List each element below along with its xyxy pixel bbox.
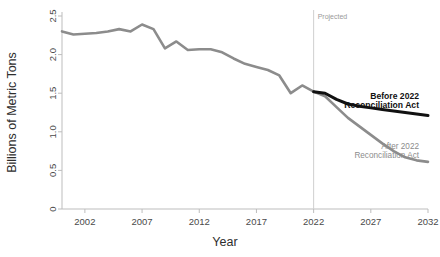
x-tick-label-group: 2002200720122017202220272032 [74, 216, 438, 227]
x-tick-label: 2012 [189, 216, 210, 227]
x-tick-label: 2032 [417, 216, 438, 227]
y-tick-label: 2.5 [47, 9, 58, 22]
y-tick-label-group: 00.51.01.52.02.5 [47, 9, 58, 211]
x-tick-label: 2002 [74, 216, 95, 227]
x-axis-title: Year [212, 235, 237, 249]
y-axis-group: 00.51.01.52.02.5 [47, 9, 62, 211]
x-tick-label: 2027 [360, 216, 381, 227]
x-tick-group [85, 209, 428, 213]
before-act-annotation: Before 2022 Reconciliation Act [344, 91, 419, 110]
y-tick-label: 0 [47, 206, 58, 211]
y-axis-title: Billions of Metric Tons [5, 52, 19, 173]
emissions-projection-chart: 00.51.01.52.02.5 20022007201220172022202… [0, 0, 440, 257]
chart-canvas: 00.51.01.52.02.5 20022007201220172022202… [0, 0, 440, 257]
after-act-label-line2: Reconciliation Act [354, 151, 419, 160]
x-axis-group: 2002200720122017202220272032 [62, 209, 439, 227]
y-tick-group [58, 16, 62, 209]
y-tick-label: 1.0 [47, 125, 58, 138]
historical-emissions-line [62, 24, 314, 93]
x-tick-label: 2007 [131, 216, 152, 227]
y-tick-label: 2.0 [47, 48, 58, 61]
y-tick-label: 1.5 [47, 87, 58, 100]
y-tick-label: 0.5 [47, 164, 58, 177]
projected-label: Projected [318, 13, 348, 21]
before-act-label-line2: Reconciliation Act [344, 100, 419, 110]
x-tick-label: 2022 [303, 216, 324, 227]
x-tick-label: 2017 [246, 216, 267, 227]
after-act-annotation: After 2022 Reconciliation Act [354, 142, 419, 160]
after-act-label-line1: After 2022 [381, 142, 419, 151]
